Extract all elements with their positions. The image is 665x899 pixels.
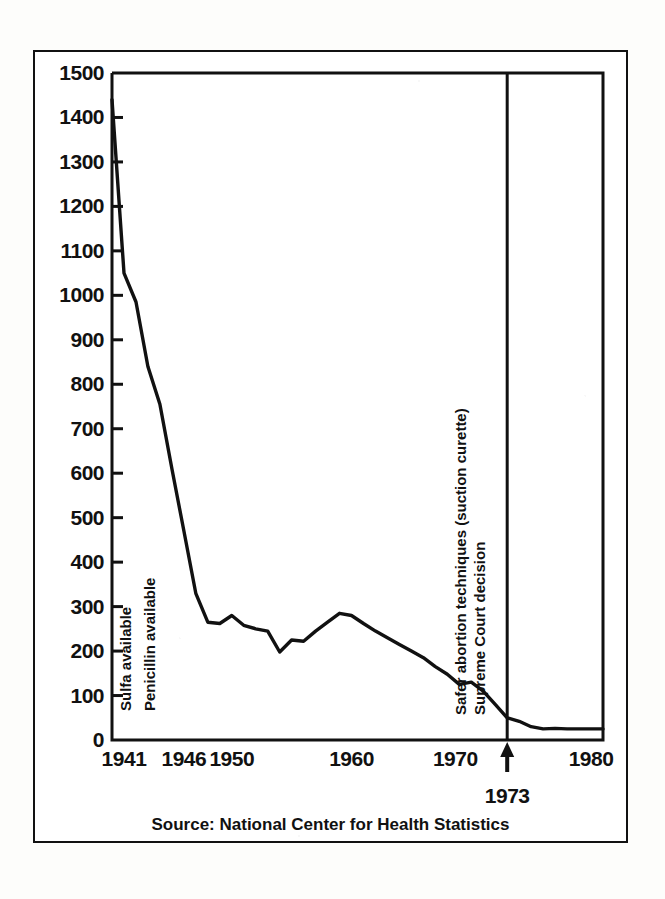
highlight-year-label: 1973 [485, 784, 530, 808]
annotation-label-supreme-court: Supreme Court decision [472, 542, 487, 715]
axis-lines [112, 73, 603, 740]
y-axis-tick-label: 300 [38, 596, 104, 617]
y-axis-tick-label: 800 [38, 373, 104, 394]
y-axis-tick-label: 600 [38, 462, 104, 483]
annotation-label-suction-curette: Safer abortion techniques (suction curet… [453, 408, 468, 715]
x-axis-tick-label: 1960 [329, 748, 374, 769]
y-axis-tick-label: 1300 [38, 151, 104, 172]
y-axis-tick-label: 400 [38, 551, 104, 572]
y-axis-tick-label: 700 [38, 418, 104, 439]
y-axis-tick-label: 1000 [38, 284, 104, 305]
annotation-label-sulfa: Sulfa available [118, 607, 133, 711]
y-axis-tick-label: 0 [38, 729, 104, 750]
x-axis-tick-label: 1970 [433, 748, 478, 769]
x-axis-tick-label: 1941 [102, 748, 147, 769]
y-axis-tick-label: 1400 [38, 106, 104, 127]
highlight-year-arrow-icon [500, 742, 514, 772]
y-axis-tick-label: 1100 [38, 240, 104, 261]
data-series-line [112, 100, 603, 729]
source-caption: Source: National Center for Health Stati… [33, 815, 628, 835]
y-axis-tick-label: 1200 [38, 195, 104, 216]
x-axis-tick-label: 1980 [569, 748, 614, 769]
x-axis-tick-label: 1950 [209, 748, 254, 769]
y-axis-tick-label: 200 [38, 640, 104, 661]
y-axis-tick-label: 100 [38, 685, 104, 706]
x-axis-tick-label: 1946 [161, 748, 206, 769]
annotation-label-penicillin: Penicillin available [142, 578, 157, 711]
y-axis-tick-label: 500 [38, 507, 104, 528]
plot-box-outline [112, 73, 603, 740]
y-axis-tick-label: 1500 [38, 62, 104, 83]
y-axis-tick-label: 900 [38, 329, 104, 350]
